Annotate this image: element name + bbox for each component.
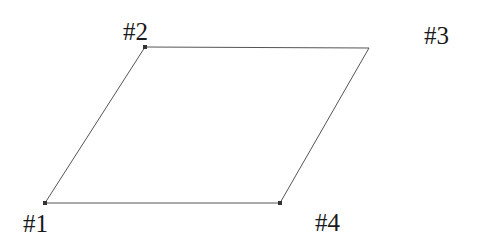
- vertex-label-3: #3: [424, 23, 449, 48]
- vertex-label-1: #1: [23, 211, 48, 236]
- parallelogram-shape: [0, 0, 479, 249]
- vertex-marker-4: [278, 201, 282, 205]
- vertex-marker-2: [143, 45, 147, 49]
- vertex-marker-1: [43, 201, 47, 205]
- diagram-canvas: #2 #3 #1 #4: [0, 0, 479, 249]
- vertex-label-4: #4: [315, 210, 340, 235]
- vertex-label-2: #2: [123, 19, 148, 44]
